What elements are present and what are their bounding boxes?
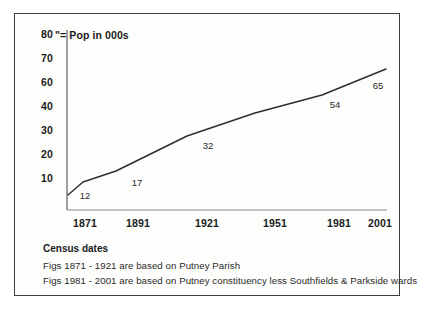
chart-svg [15,14,401,297]
y-tick-30: 30 [31,124,53,136]
x-tick-1951: 1951 [255,217,295,229]
y-tick-20: 20 [31,148,53,160]
x-tick-1921: 1921 [187,217,227,229]
data-label-1981: 54 [322,99,348,110]
footnote-parish: Figs 1871 - 1921 are based on Putney Par… [43,260,240,271]
data-label-2001: 65 [365,80,391,91]
x-tick-2001: 2001 [360,217,400,229]
y-tick-40: 40 [31,100,53,112]
y-tick-60: 60 [31,76,53,88]
data-label-1891: 17 [124,177,150,188]
x-axis-caption: Census dates [43,243,108,254]
y-tick-80: 80 [31,28,53,40]
data-label-1871: 12 [72,190,98,201]
footnote-constituency: Figs 1981 - 2001 are based on Putney con… [43,275,417,286]
chart-plot-area: "= Pop in 000s 80 70 60 40 30 20 10 1871… [15,14,401,297]
y-axis-unit-label: "= Pop in 000s [55,29,129,41]
x-tick-1981: 1981 [319,217,359,229]
y-tick-70: 70 [31,52,53,64]
data-label-1921: 32 [195,140,221,151]
y-tick-10: 10 [31,172,53,184]
x-tick-1871: 1871 [65,217,105,229]
population-trend-line [68,69,386,195]
x-tick-1891: 1891 [118,217,158,229]
figure-frame: "= Pop in 000s 80 70 60 40 30 20 10 1871… [14,13,400,296]
